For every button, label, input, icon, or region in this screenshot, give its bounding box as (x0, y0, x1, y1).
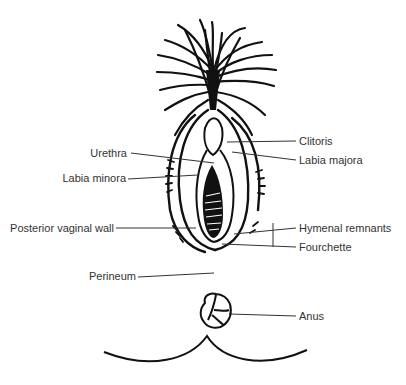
label-perineum: Perineum (89, 270, 136, 283)
label-labia-minora: Labia minora (62, 172, 126, 185)
label-urethra: Urethra (90, 147, 127, 160)
label-hymenal-remnants: Hymenal remnants (299, 222, 391, 235)
label-labia-majora: Labia majora (299, 154, 363, 167)
label-posterior-vaginal-wall: Posterior vaginal wall (10, 222, 114, 235)
pubic-hair-core (206, 70, 220, 110)
clitoral-hood (204, 118, 222, 155)
anus-drawing (201, 293, 231, 327)
buttocks-curve (104, 336, 307, 361)
label-fourchette: Fourchette (299, 241, 352, 254)
label-clitoris: Clitoris (299, 135, 333, 148)
leader-lines (116, 141, 296, 316)
anatomy-illustration (0, 0, 406, 385)
label-anus: Anus (299, 310, 324, 323)
